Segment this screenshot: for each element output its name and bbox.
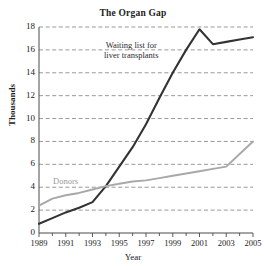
x-axis-tick-label: 1999 [159, 239, 187, 248]
y-axis-tick-label: 18 [13, 22, 35, 31]
x-axis-tick-label: 2003 [212, 239, 240, 248]
x-axis-tick-label: 1997 [132, 239, 160, 248]
waiting-list-annotation-line1: Waiting list for [104, 40, 159, 50]
y-axis-tick-label: 6 [13, 159, 35, 168]
x-axis-tick-label: 1993 [79, 239, 107, 248]
x-axis-tick-label: 2005 [239, 239, 266, 248]
y-axis-tick-label: 10 [13, 114, 35, 123]
x-axis-tick-label: 1995 [105, 239, 133, 248]
y-axis-tick-label: 14 [13, 68, 35, 77]
y-axis-tick-label: 2 [13, 205, 35, 214]
y-axis-tick-label: 0 [13, 228, 35, 237]
y-axis-tick-label: 4 [13, 182, 35, 191]
donors-annotation: Donors [53, 176, 78, 186]
x-axis-tick-label: 1991 [52, 239, 80, 248]
waiting-list-annotation: Waiting list forliver transplants [104, 40, 159, 60]
y-axis-tick-label: 8 [13, 136, 35, 145]
donors-series-line [39, 141, 253, 205]
organ-gap-chart: The Organ Gap Thousands Year Waiting lis… [0, 0, 266, 270]
y-axis-tick-label: 16 [13, 45, 35, 54]
x-axis-tick-label: 2001 [186, 239, 214, 248]
x-axis-tick-label: 1989 [25, 239, 53, 248]
y-axis-tick-label: 12 [13, 91, 35, 100]
waiting-list-annotation-line2: liver transplants [104, 50, 159, 60]
